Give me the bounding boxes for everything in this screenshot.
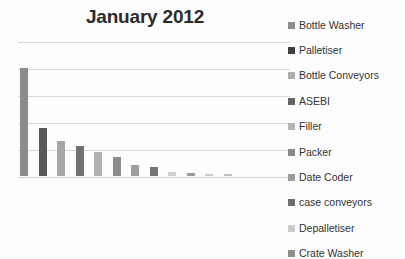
bar <box>20 68 28 176</box>
chart-title: January 2012 <box>0 6 290 28</box>
legend-swatch-icon <box>288 123 295 130</box>
bar <box>39 128 47 176</box>
legend-swatch-icon <box>288 22 295 29</box>
plot-area <box>18 42 290 178</box>
legend-swatch-icon <box>288 174 295 181</box>
legend-item[interactable]: Date Coder <box>288 170 353 184</box>
legend-label: Depalletiser <box>299 223 354 234</box>
bar <box>94 152 102 176</box>
legend-label: ASEBI <box>299 96 330 107</box>
legend-label: Filler <box>299 121 322 132</box>
legend-label: case conveyors <box>299 197 372 208</box>
bar <box>168 172 176 177</box>
bar <box>187 173 195 176</box>
legend-swatch-icon <box>288 250 295 257</box>
legend-item[interactable]: Filler <box>288 120 322 134</box>
legend-item[interactable]: ASEBI <box>288 94 330 108</box>
legend-item[interactable]: Palletiser <box>288 43 342 57</box>
legend-swatch-icon <box>288 225 295 232</box>
bar <box>131 165 139 176</box>
bar-series <box>18 42 290 177</box>
bar <box>113 157 121 176</box>
legend-item[interactable]: Crate Washer <box>288 247 363 259</box>
legend-swatch-icon <box>288 199 295 206</box>
legend-label: Palletiser <box>299 45 342 56</box>
legend-item[interactable]: Packer <box>288 145 332 159</box>
legend-item[interactable]: Bottle Washer <box>288 18 365 32</box>
legend-label: Date Coder <box>299 172 353 183</box>
legend-swatch-icon <box>288 47 295 54</box>
legend-label: Bottle Conveyors <box>299 70 379 81</box>
legend-swatch-icon <box>288 149 295 156</box>
legend-swatch-icon <box>288 98 295 105</box>
bar <box>76 146 84 176</box>
chart-container: January 2012 Bottle WasherPalletiserBott… <box>0 0 405 259</box>
legend-item[interactable]: Depalletiser <box>288 221 354 235</box>
bar <box>205 174 213 176</box>
chart-legend: Bottle WasherPalletiserBottle ConveyorsA… <box>288 18 405 254</box>
axis-baseline <box>18 177 290 178</box>
legend-item[interactable]: Bottle Conveyors <box>288 69 379 83</box>
legend-label: Packer <box>299 147 332 158</box>
bar <box>224 174 232 176</box>
legend-swatch-icon <box>288 72 295 79</box>
bar <box>150 167 158 176</box>
legend-item[interactable]: case conveyors <box>288 196 372 210</box>
legend-label: Bottle Washer <box>299 20 365 31</box>
bar <box>57 141 65 176</box>
legend-label: Crate Washer <box>299 248 363 259</box>
